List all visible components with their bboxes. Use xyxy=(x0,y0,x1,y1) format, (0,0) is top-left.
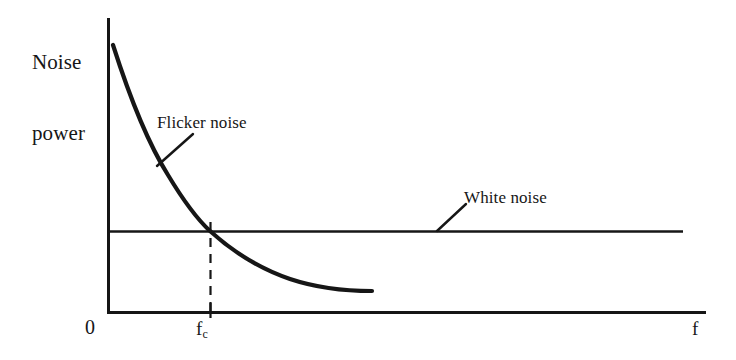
flicker-noise-leader-line xyxy=(157,134,193,166)
white-noise-leader-line xyxy=(437,204,466,231)
x-axis-label: f xyxy=(692,318,698,339)
cutoff-frequency-tick-label: fc xyxy=(196,318,208,342)
flicker-noise-annotation: Flicker noise xyxy=(157,113,247,132)
origin-tick-label: 0 xyxy=(85,316,95,338)
cutoff-frequency-subscript: c xyxy=(202,327,207,341)
plot-canvas xyxy=(0,0,736,360)
white-noise-annotation: White noise xyxy=(464,188,547,207)
y-axis-label-line-2: power xyxy=(32,122,85,146)
noise-power-figure: Noise power Flicker noise White noise 0 … xyxy=(0,0,736,360)
y-axis-label-line-1: Noise xyxy=(32,51,85,75)
y-axis-label: Noise power xyxy=(32,4,85,192)
flicker-noise-curve xyxy=(113,45,372,291)
